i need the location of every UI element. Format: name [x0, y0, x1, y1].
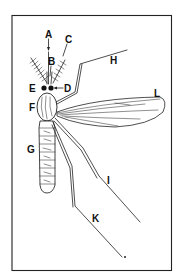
label-k: K — [92, 213, 100, 224]
label-g: G — [27, 144, 35, 155]
thorax — [37, 93, 57, 121]
abdomen — [39, 121, 55, 193]
antenna-left — [30, 58, 48, 83]
label-c: C — [65, 34, 72, 45]
label-b: B — [48, 56, 55, 67]
middle-leg — [54, 118, 140, 222]
pointer-a-arrow — [47, 47, 50, 51]
eye-right — [48, 85, 53, 90]
label-d: D — [64, 83, 71, 94]
label-e: E — [29, 83, 36, 94]
label-l: L — [154, 88, 160, 99]
label-i: I — [107, 175, 110, 186]
insect-diagram: A B C D E F G H I K L — [0, 0, 178, 277]
label-h: H — [110, 55, 117, 66]
pointer-b — [50, 66, 51, 76]
eye-left — [41, 85, 46, 90]
wing — [57, 97, 165, 127]
pointer-d-arrow — [54, 87, 58, 90]
pointer-c — [63, 44, 67, 56]
hind-leg — [52, 122, 126, 258]
label-a: A — [45, 29, 52, 40]
diagram-frame — [12, 16, 172, 271]
palp-right — [51, 72, 52, 84]
label-f: F — [29, 102, 35, 113]
